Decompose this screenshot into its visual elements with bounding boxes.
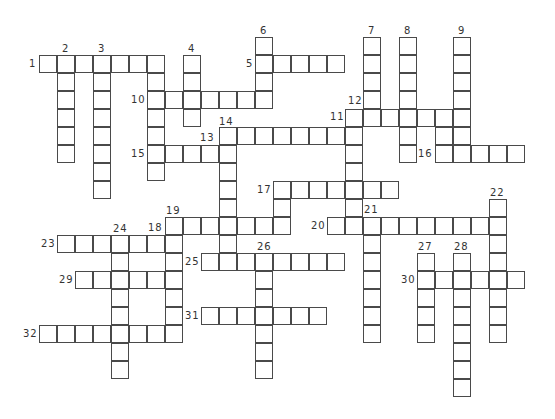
crossword-cell[interactable]	[363, 253, 381, 271]
crossword-cell[interactable]	[363, 55, 381, 73]
crossword-cell[interactable]	[57, 127, 75, 145]
crossword-cell[interactable]	[111, 361, 129, 379]
crossword-cell[interactable]	[489, 145, 507, 163]
crossword-cell[interactable]	[237, 217, 255, 235]
crossword-cell[interactable]	[489, 253, 507, 271]
crossword-cell[interactable]	[237, 253, 255, 271]
crossword-cell[interactable]	[309, 307, 327, 325]
crossword-cell[interactable]	[255, 91, 273, 109]
crossword-cell[interactable]	[255, 289, 273, 307]
crossword-cell[interactable]	[381, 217, 399, 235]
crossword-cell[interactable]	[183, 145, 201, 163]
crossword-cell[interactable]	[201, 145, 219, 163]
crossword-cell[interactable]	[219, 217, 237, 235]
crossword-cell[interactable]	[165, 91, 183, 109]
crossword-cell[interactable]	[453, 271, 471, 289]
crossword-cell[interactable]	[39, 325, 57, 343]
crossword-cell[interactable]	[399, 145, 417, 163]
crossword-cell[interactable]	[129, 55, 147, 73]
crossword-cell[interactable]	[255, 37, 273, 55]
crossword-cell[interactable]	[111, 235, 129, 253]
crossword-cell[interactable]	[57, 325, 75, 343]
crossword-cell[interactable]	[57, 55, 75, 73]
crossword-cell[interactable]	[219, 163, 237, 181]
crossword-cell[interactable]	[435, 127, 453, 145]
crossword-cell[interactable]	[363, 109, 381, 127]
crossword-cell[interactable]	[165, 253, 183, 271]
crossword-cell[interactable]	[489, 307, 507, 325]
crossword-cell[interactable]	[435, 271, 453, 289]
crossword-cell[interactable]	[363, 73, 381, 91]
crossword-cell[interactable]	[327, 181, 345, 199]
crossword-cell[interactable]	[93, 163, 111, 181]
crossword-cell[interactable]	[183, 109, 201, 127]
crossword-cell[interactable]	[147, 271, 165, 289]
crossword-cell[interactable]	[399, 109, 417, 127]
crossword-cell[interactable]	[291, 181, 309, 199]
crossword-cell[interactable]	[255, 361, 273, 379]
crossword-cell[interactable]	[399, 73, 417, 91]
crossword-cell[interactable]	[309, 55, 327, 73]
crossword-cell[interactable]	[183, 217, 201, 235]
crossword-cell[interactable]	[255, 271, 273, 289]
crossword-cell[interactable]	[147, 55, 165, 73]
crossword-cell[interactable]	[75, 55, 93, 73]
crossword-cell[interactable]	[147, 109, 165, 127]
crossword-cell[interactable]	[291, 55, 309, 73]
crossword-cell[interactable]	[201, 217, 219, 235]
crossword-cell[interactable]	[183, 73, 201, 91]
crossword-cell[interactable]	[93, 235, 111, 253]
crossword-cell[interactable]	[255, 343, 273, 361]
crossword-cell[interactable]	[75, 325, 93, 343]
crossword-cell[interactable]	[237, 127, 255, 145]
crossword-cell[interactable]	[453, 37, 471, 55]
crossword-cell[interactable]	[453, 379, 471, 397]
crossword-cell[interactable]	[345, 145, 363, 163]
crossword-cell[interactable]	[417, 253, 435, 271]
crossword-cell[interactable]	[219, 199, 237, 217]
crossword-cell[interactable]	[111, 307, 129, 325]
crossword-cell[interactable]	[291, 307, 309, 325]
crossword-cell[interactable]	[471, 217, 489, 235]
crossword-cell[interactable]	[57, 91, 75, 109]
crossword-cell[interactable]	[453, 55, 471, 73]
crossword-cell[interactable]	[417, 325, 435, 343]
crossword-cell[interactable]	[453, 145, 471, 163]
crossword-cell[interactable]	[93, 271, 111, 289]
crossword-cell[interactable]	[255, 325, 273, 343]
crossword-cell[interactable]	[363, 271, 381, 289]
crossword-cell[interactable]	[219, 253, 237, 271]
crossword-cell[interactable]	[291, 253, 309, 271]
crossword-cell[interactable]	[345, 163, 363, 181]
crossword-cell[interactable]	[255, 253, 273, 271]
crossword-cell[interactable]	[471, 145, 489, 163]
crossword-cell[interactable]	[147, 235, 165, 253]
crossword-cell[interactable]	[219, 181, 237, 199]
crossword-cell[interactable]	[219, 235, 237, 253]
crossword-cell[interactable]	[57, 145, 75, 163]
crossword-cell[interactable]	[417, 289, 435, 307]
crossword-cell[interactable]	[255, 73, 273, 91]
crossword-cell[interactable]	[255, 217, 273, 235]
crossword-cell[interactable]	[363, 307, 381, 325]
crossword-cell[interactable]	[201, 307, 219, 325]
crossword-cell[interactable]	[183, 55, 201, 73]
crossword-cell[interactable]	[237, 307, 255, 325]
crossword-cell[interactable]	[399, 55, 417, 73]
crossword-cell[interactable]	[165, 145, 183, 163]
crossword-cell[interactable]	[363, 91, 381, 109]
crossword-cell[interactable]	[75, 271, 93, 289]
crossword-cell[interactable]	[93, 109, 111, 127]
crossword-cell[interactable]	[489, 199, 507, 217]
crossword-cell[interactable]	[183, 91, 201, 109]
crossword-cell[interactable]	[147, 73, 165, 91]
crossword-cell[interactable]	[93, 325, 111, 343]
crossword-cell[interactable]	[237, 91, 255, 109]
crossword-cell[interactable]	[273, 199, 291, 217]
crossword-cell[interactable]	[471, 271, 489, 289]
crossword-cell[interactable]	[309, 127, 327, 145]
crossword-cell[interactable]	[273, 217, 291, 235]
crossword-cell[interactable]	[345, 109, 363, 127]
crossword-cell[interactable]	[417, 109, 435, 127]
crossword-cell[interactable]	[219, 307, 237, 325]
